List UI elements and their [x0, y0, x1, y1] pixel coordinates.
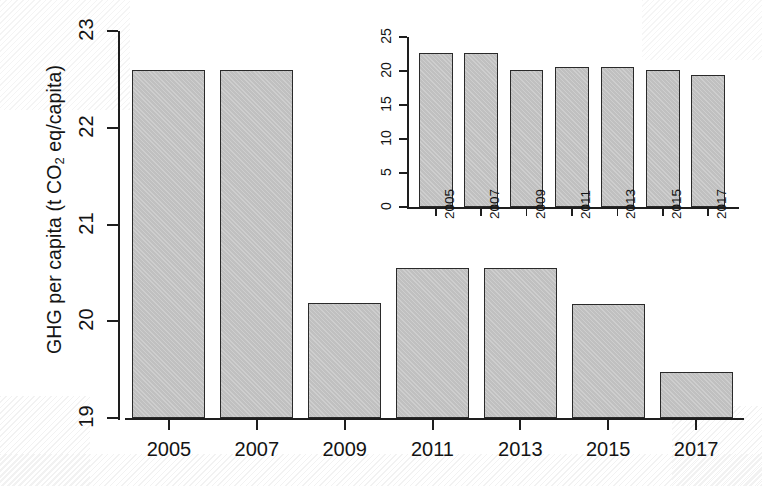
y-axis-tick — [107, 320, 118, 322]
y-tick-label: 19 — [75, 397, 98, 437]
inset-bar-chart: 0510152025 2005200720092011201320152017 — [383, 8, 755, 270]
inset-x-axis-tick — [707, 209, 709, 216]
inset-table-row — [691, 75, 725, 207]
x-axis-tick — [695, 420, 697, 430]
inset-x-axis-tick — [662, 209, 664, 216]
inset-x-tick-label: 2005 — [442, 189, 457, 219]
y-tick-label: 23 — [75, 10, 98, 50]
inset-y-axis-tick — [399, 138, 407, 140]
table-row — [220, 70, 293, 418]
x-tick-label: 2013 — [475, 438, 565, 461]
inset-y-axis-tick — [399, 36, 407, 38]
x-axis-spine — [125, 418, 744, 420]
y-axis-title: GHG per capita (t CO2 eq/capita) — [43, 60, 66, 360]
x-tick-label: 2007 — [212, 438, 302, 461]
y-tick-label: 21 — [75, 203, 98, 243]
x-tick-label: 2017 — [651, 438, 741, 461]
inset-x-axis-tick — [571, 209, 573, 216]
inset-y-tick-label: 10 — [378, 123, 394, 153]
x-tick-label: 2015 — [563, 438, 653, 461]
x-tick-label: 2009 — [300, 438, 390, 461]
inset-y-axis-spine — [407, 37, 409, 209]
inset-table-row — [646, 70, 680, 207]
inset-x-axis-tick — [435, 209, 437, 216]
y-axis-tick — [107, 127, 118, 129]
inset-x-tick-label: 2017 — [714, 189, 729, 219]
y-axis-title-suffix: eq/capita) — [43, 65, 65, 157]
table-row — [484, 268, 557, 418]
inset-x-tick-label: 2007 — [487, 189, 502, 219]
x-axis-tick — [607, 420, 609, 430]
table-row — [572, 304, 645, 418]
inset-table-row — [601, 67, 635, 207]
y-tick-label: 22 — [75, 106, 98, 146]
x-axis-tick — [168, 420, 170, 430]
inset-y-axis-tick — [399, 172, 407, 174]
inset-y-axis-tick — [399, 104, 407, 106]
y-tick-label: 20 — [75, 300, 98, 340]
x-axis-tick — [344, 420, 346, 430]
inset-y-tick-label: 20 — [378, 55, 394, 85]
y-axis-spine — [118, 31, 120, 420]
x-axis-tick — [256, 420, 258, 430]
y-axis-title-subscript: 2 — [52, 157, 67, 164]
y-axis-title-prefix: GHG per capita (t CO — [43, 165, 65, 354]
inset-table-row — [464, 53, 498, 207]
inset-x-tick-label: 2015 — [669, 189, 684, 219]
y-axis-tick — [107, 224, 118, 226]
inset-y-tick-label: 0 — [378, 191, 394, 221]
inset-x-axis-tick — [617, 209, 619, 216]
table-row — [132, 70, 205, 418]
table-row — [396, 268, 469, 418]
inset-x-tick-label: 2013 — [623, 189, 638, 219]
inset-table-row — [510, 70, 544, 207]
figure-canvas: GHG per capita (t CO2 eq/capita) 1920212… — [0, 0, 762, 486]
y-axis-tick — [107, 417, 118, 419]
inset-table-row — [555, 67, 589, 207]
inset-y-axis-tick — [399, 70, 407, 72]
x-tick-label: 2005 — [124, 438, 214, 461]
x-axis-tick — [432, 420, 434, 430]
x-tick-label: 2011 — [388, 438, 478, 461]
inset-x-axis-tick — [480, 209, 482, 216]
inset-y-tick-label: 15 — [378, 89, 394, 119]
inset-x-tick-label: 2011 — [578, 190, 593, 219]
inset-y-tick-label: 25 — [378, 21, 394, 51]
inset-x-axis-tick — [526, 209, 528, 216]
y-axis-tick — [107, 30, 118, 32]
inset-table-row — [419, 53, 453, 207]
inset-y-axis-tick — [399, 206, 407, 208]
inset-x-tick-label: 2009 — [533, 189, 548, 219]
x-axis-tick — [519, 420, 521, 430]
table-row — [308, 303, 381, 418]
inset-y-tick-label: 5 — [378, 157, 394, 187]
table-row — [660, 372, 733, 418]
